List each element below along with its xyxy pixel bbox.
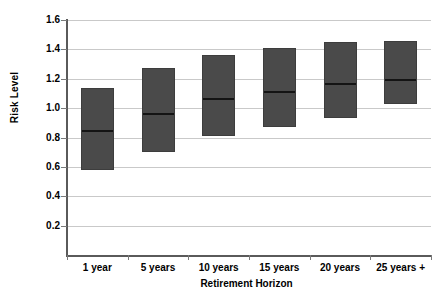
range-bar [81, 88, 114, 170]
x-tick-label: 10 years [188, 262, 249, 274]
median-line [143, 113, 174, 115]
median-line [203, 98, 234, 100]
range-bar [263, 48, 296, 127]
x-tick-mark [310, 255, 311, 260]
plot-area [67, 20, 431, 255]
gridline [67, 108, 431, 109]
gridline [67, 49, 431, 50]
y-tick-label: 1.4 [4, 44, 60, 54]
y-tick: 0.6 [0, 162, 60, 172]
y-tick-mark [61, 49, 67, 50]
x-tick-mark [249, 255, 250, 260]
y-tick: 1.2 [0, 74, 60, 84]
y-tick-label: 1.2 [4, 74, 60, 84]
y-tick-mark [61, 167, 67, 168]
y-tick-label: 0.2 [4, 221, 60, 231]
y-tick-label: 0.4 [4, 191, 60, 201]
y-tick: 0.4 [0, 191, 60, 201]
y-tick-label: 0.8 [4, 133, 60, 143]
y-tick: 1.6 [0, 15, 60, 25]
x-tick-label: 20 years [310, 262, 371, 274]
y-tick: 0.8 [0, 133, 60, 143]
y-tick-mark [61, 108, 67, 109]
median-line [325, 83, 356, 85]
y-tick: 1.4 [0, 44, 60, 54]
x-tick-mark [128, 255, 129, 260]
x-tick-mark [431, 255, 432, 260]
range-bar [384, 41, 417, 104]
gridline [67, 167, 431, 168]
median-line [82, 130, 113, 132]
range-bar [142, 68, 175, 152]
y-tick-label: 0.6 [4, 162, 60, 172]
range-bar [202, 55, 235, 136]
gridline [67, 226, 431, 227]
x-tick-label: 15 years [249, 262, 310, 274]
y-tick-mark [61, 20, 67, 21]
y-tick-mark [61, 226, 67, 227]
y-tick-mark [61, 138, 67, 139]
x-tick-mark [67, 255, 68, 260]
x-axis-title: Retirement Horizon [0, 278, 441, 289]
gridline [67, 138, 431, 139]
y-tick-label: 1.6 [4, 15, 60, 25]
gridline [67, 79, 431, 80]
x-tick-label: 25 years + [370, 262, 431, 274]
x-tick-label: 1 year [67, 262, 128, 274]
chart-container: Risk Level 1.61.41.21.00.80.60.40.2 1 ye… [0, 0, 441, 304]
y-tick: 1.0 [0, 103, 60, 113]
gridline [67, 196, 431, 197]
x-tick-mark [370, 255, 371, 260]
x-tick-label: 5 years [128, 262, 189, 274]
gridline [67, 20, 431, 21]
x-tick-mark [188, 255, 189, 260]
median-line [385, 79, 416, 81]
range-bar [324, 42, 357, 118]
y-tick-mark [61, 196, 67, 197]
y-tick: 0.2 [0, 221, 60, 231]
median-line [264, 91, 295, 93]
y-tick-mark [61, 79, 67, 80]
y-tick-label: 1.0 [4, 103, 60, 113]
